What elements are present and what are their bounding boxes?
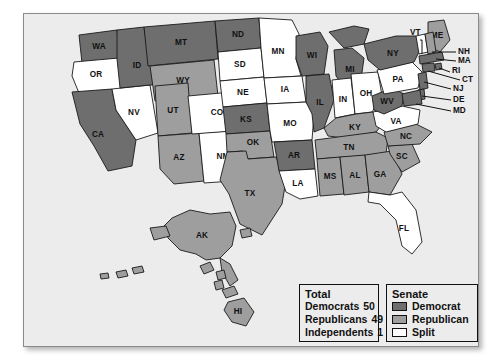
- state-label-KY: KY: [349, 123, 361, 132]
- legend-senate-row-democrat: Democrat: [392, 300, 472, 313]
- callout-CT: CT: [428, 71, 473, 84]
- state-label-IL: IL: [316, 98, 324, 107]
- swatch-democrat-icon: [392, 302, 407, 311]
- state-label-MI: MI: [345, 65, 355, 74]
- callout-NJ: NJ: [424, 82, 463, 93]
- state-label-OH: OH: [360, 89, 373, 98]
- state-MN[interactable]: MN: [259, 18, 301, 78]
- state-label-IA: IA: [281, 85, 290, 94]
- state-label-GA: GA: [374, 170, 387, 179]
- state-label-MN: MN: [271, 47, 284, 56]
- state-label-SC: SC: [396, 152, 408, 161]
- legend-total-republicans-value: 49: [367, 313, 383, 326]
- state-label-NY: NY: [387, 49, 399, 58]
- state-AK[interactable]: AK: [100, 210, 252, 286]
- state-label-IN: IN: [339, 95, 348, 104]
- legend-total-independents-value: 1: [373, 326, 383, 339]
- state-label-VA: VA: [390, 117, 401, 126]
- state-label-MS: MS: [324, 172, 337, 181]
- state-SD[interactable]: SD: [218, 48, 264, 81]
- legend-senate-republican-label: Republican: [412, 313, 469, 326]
- callout-MD: MD: [416, 104, 466, 115]
- callout-label-CT: CT: [462, 75, 473, 84]
- legend-senate-split-label: Split: [412, 326, 435, 339]
- legend-total-democrats-value: 50: [359, 300, 375, 313]
- state-UT[interactable]: UT: [155, 83, 192, 136]
- state-label-CA: CA: [92, 130, 104, 139]
- swatch-republican-icon: [392, 315, 407, 324]
- legend-senate-row-republican: Republican: [392, 313, 472, 326]
- state-label-KS: KS: [240, 115, 252, 124]
- legend-total-independents-label: Independents: [305, 326, 373, 339]
- state-ND[interactable]: ND: [215, 18, 261, 52]
- callout-label-VT: VT: [410, 28, 420, 37]
- map-panel: WA OR CA NV ID MT: [23, 13, 479, 347]
- state-label-AZ: AZ: [173, 153, 184, 162]
- legend-total-box: Total Democrats 50 Republicans 49 Indepe…: [299, 284, 379, 342]
- state-label-NV: NV: [128, 108, 140, 117]
- legend-total-row-republicans: Republicans 49: [305, 313, 373, 326]
- state-label-HI: HI: [234, 307, 243, 316]
- callout-label-RI: RI: [452, 66, 460, 75]
- state-label-ND: ND: [232, 30, 244, 39]
- state-label-OK: OK: [247, 138, 260, 147]
- state-MT[interactable]: MT: [144, 21, 218, 66]
- state-AR[interactable]: AR: [274, 140, 315, 171]
- state-label-MO: MO: [283, 119, 297, 128]
- legend-senate-democrat-label: Democrat: [412, 300, 460, 313]
- legend-total-row-independents: Independents 1: [305, 326, 373, 339]
- state-label-FL: FL: [399, 224, 409, 233]
- state-MS[interactable]: MS: [317, 157, 344, 196]
- legend-total-row-democrats: Democrats 50: [305, 300, 373, 313]
- state-label-ID: ID: [133, 61, 142, 70]
- legend-total-democrats-label: Democrats: [305, 300, 359, 313]
- legend-total-title: Total: [305, 288, 373, 300]
- state-WI[interactable]: WI: [296, 32, 328, 76]
- state-label-MT: MT: [175, 38, 187, 47]
- state-label-PA: PA: [392, 75, 403, 84]
- legend-senate-title: Senate: [392, 288, 472, 300]
- state-label-SD: SD: [234, 60, 246, 69]
- state-NE[interactable]: NE: [220, 77, 267, 107]
- state-label-AK: AK: [196, 231, 208, 240]
- state-label-AR: AR: [288, 151, 300, 160]
- callout-label-NH: NH: [458, 47, 470, 56]
- callout-label-MD: MD: [453, 106, 466, 115]
- state-label-NC: NC: [400, 132, 412, 141]
- state-KS[interactable]: KS: [223, 103, 270, 134]
- state-label-WI: WI: [307, 51, 317, 60]
- state-label-OR: OR: [90, 70, 103, 79]
- state-label-TN: TN: [343, 143, 354, 152]
- callout-label-DE: DE: [453, 95, 465, 104]
- legend-total-republicans-label: Republicans: [305, 313, 367, 326]
- callout-label-MA: MA: [458, 56, 471, 65]
- state-label-WV: WV: [380, 97, 394, 106]
- state-AZ[interactable]: AZ: [158, 133, 204, 184]
- legend-senate-box: Senate Democrat Republican Split: [386, 284, 478, 342]
- state-MA[interactable]: [419, 52, 444, 64]
- state-label-WA: WA: [92, 42, 106, 51]
- state-MO[interactable]: MO: [267, 102, 314, 142]
- map-figure: WA OR CA NV ID MT: [0, 0, 487, 359]
- state-label-CO: CO: [211, 108, 224, 117]
- state-NJ[interactable]: [418, 72, 428, 90]
- legend-senate-row-split: Split: [392, 326, 472, 339]
- callout-label-NJ: NJ: [453, 84, 463, 93]
- state-MD[interactable]: [402, 90, 422, 106]
- callout-DE: DE: [422, 95, 465, 104]
- state-label-LA: LA: [292, 179, 303, 188]
- state-OR[interactable]: OR: [72, 58, 122, 93]
- state-label-UT: UT: [167, 106, 178, 115]
- state-IA[interactable]: IA: [264, 76, 306, 104]
- state-label-TX: TX: [245, 189, 256, 198]
- state-AL[interactable]: AL: [340, 155, 369, 195]
- state-label-AL: AL: [349, 171, 360, 180]
- state-FL[interactable]: FL: [368, 192, 422, 254]
- swatch-split-icon: [392, 328, 407, 337]
- state-label-NE: NE: [237, 88, 249, 97]
- state-LA[interactable]: LA: [279, 169, 318, 199]
